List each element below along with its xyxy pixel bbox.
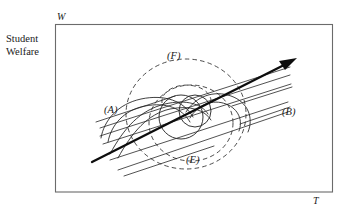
separatrix-arrow-line: [92, 62, 290, 162]
student-welfare-phase-diagram: W T Student Welfare: [0, 0, 345, 205]
y-axis-title-line2: Welfare: [6, 46, 39, 57]
trajectory-fan-right-1: [232, 87, 292, 106]
trajectory-upper-3: [103, 84, 291, 144]
diagram-content: (A) (B) (E) (F): [92, 50, 297, 176]
y-axis-symbol: W: [57, 11, 67, 22]
region-label-f: (F): [167, 50, 181, 62]
region-label-b: (B): [282, 106, 296, 118]
region-label-e: (E): [186, 154, 200, 166]
trajectory-fan-left-2: [124, 146, 214, 176]
y-axis-title-line1: Student: [6, 33, 38, 44]
x-axis-symbol: T: [313, 195, 320, 205]
region-label-a: (A): [104, 104, 118, 116]
figure-canvas: W T Student Welfare: [0, 0, 345, 205]
separatrix-arrow-head: [279, 58, 297, 70]
